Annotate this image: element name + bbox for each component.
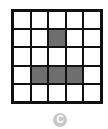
grid-cell — [13, 47, 31, 65]
grid-cell — [83, 84, 101, 102]
grid-cell — [48, 11, 66, 29]
grid-cell — [66, 84, 84, 102]
shaded-cell — [66, 66, 84, 84]
grid-cell — [66, 11, 84, 29]
grid-cell — [13, 11, 31, 29]
grid-cell — [83, 29, 101, 47]
grid-cell — [31, 84, 49, 102]
grid-cell — [13, 66, 31, 84]
grid-cell — [66, 47, 84, 65]
grid-cell — [13, 29, 31, 47]
grid-cell — [31, 29, 49, 47]
grid-cell — [48, 47, 66, 65]
grid-cell — [83, 47, 101, 65]
grid-cell — [31, 11, 49, 29]
grid-cell — [48, 84, 66, 102]
grid-cell — [83, 11, 101, 29]
grid-cell — [31, 47, 49, 65]
shaded-cell — [31, 66, 49, 84]
grid-cell — [66, 29, 84, 47]
grid-diagram — [11, 9, 103, 104]
shaded-cell — [48, 29, 66, 47]
shaded-cell — [48, 66, 66, 84]
option-label-badge: C — [53, 113, 67, 127]
grid-cell — [83, 66, 101, 84]
grid-cell — [13, 84, 31, 102]
